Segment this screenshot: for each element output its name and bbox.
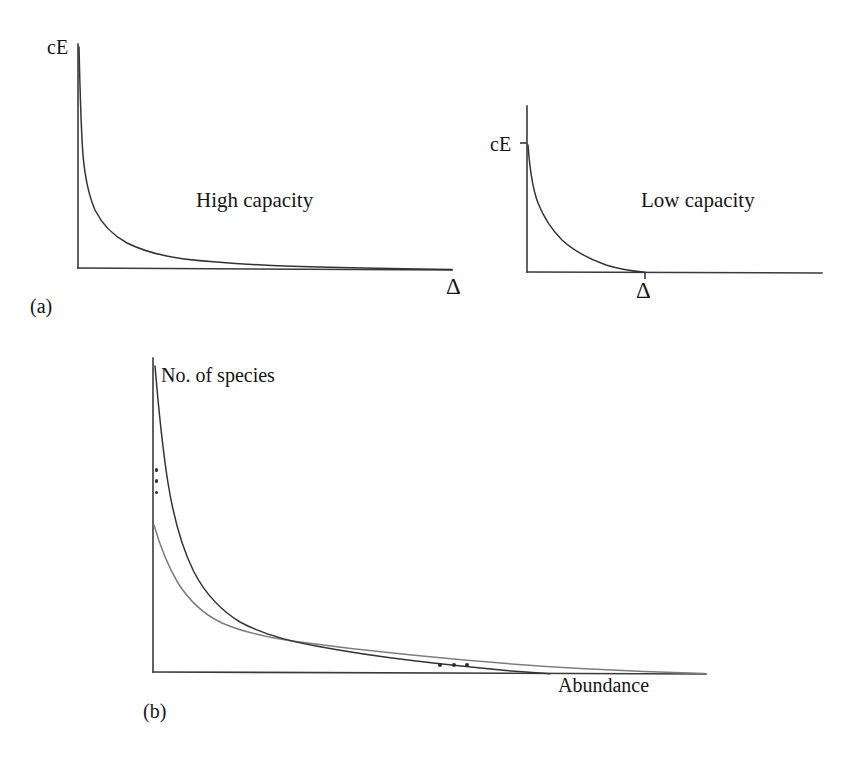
y-axis-label-ce: cE (490, 134, 511, 154)
panel-a-caption: (a) (30, 296, 52, 316)
x-axis-label-delta: Δ (446, 275, 461, 298)
panel-a-right: cE Low capacity Δ (470, 0, 859, 310)
horizontal-ellipsis-icon (438, 662, 469, 667)
high-capacity-decay-curve (79, 47, 452, 270)
annotation-low-capacity: Low capacity (641, 190, 755, 211)
panel-b-plot (120, 340, 740, 710)
y-axis-label-ce: cE (47, 37, 68, 57)
x-axis-label-delta: Δ (636, 279, 651, 302)
figure-root: cE High capacity Δ cE Low capacity Δ (a) (0, 0, 859, 763)
vertical-ellipsis-icon (154, 468, 159, 494)
panel-a-left-plot (0, 0, 470, 310)
x-axis-line (527, 272, 822, 273)
panel-a-left: cE High capacity Δ (0, 0, 470, 310)
low-capacity-decay-curve (528, 145, 645, 272)
annotation-high-capacity: High capacity (196, 190, 313, 211)
panel-b-caption: (b) (143, 701, 166, 721)
panel-a-right-plot (470, 0, 859, 310)
shallow-rank-abundance-curve (154, 525, 704, 674)
x-axis-label-abundance: Abundance (558, 675, 649, 695)
y-axis-label-no-of-species: No. of species (161, 365, 275, 385)
steep-rank-abundance-curve (155, 366, 550, 674)
panel-b: No. of species Abundance (120, 340, 740, 710)
